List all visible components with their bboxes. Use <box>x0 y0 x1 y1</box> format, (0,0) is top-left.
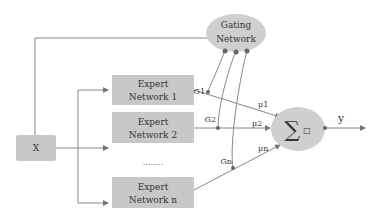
expert2-line2: Network 2 <box>129 130 177 140</box>
sum-box: □ <box>303 126 311 135</box>
gate-label-n: Gn <box>220 157 232 166</box>
weight-label-n: μn <box>258 144 268 153</box>
expert1-line2: Network 1 <box>129 92 177 102</box>
gate-label-2: G2 <box>205 115 216 124</box>
expert2-line1: Expert <box>138 117 169 127</box>
weight-label-2: μ2 <box>252 119 262 128</box>
expertn-line1: Expert <box>138 182 169 192</box>
gating-label-1: Gating <box>221 20 252 30</box>
sum-symbol: ∑ <box>284 117 300 142</box>
weight-label-1: μ1 <box>258 100 268 109</box>
gaten-curve <box>232 50 247 168</box>
gate1-curve <box>208 50 225 92</box>
expert1-line1: Expert <box>138 79 169 89</box>
gating-label-2: Network <box>216 34 256 44</box>
moe-diagram: Gating Network X Expert Network 1 Expert… <box>0 0 379 220</box>
gate-label-1: G1 <box>194 87 205 96</box>
ellipsis: ........ <box>143 158 163 167</box>
expertn-line2: Network n <box>129 195 178 205</box>
output-y-label: y <box>337 112 345 125</box>
input-x-label: X <box>33 143 40 153</box>
